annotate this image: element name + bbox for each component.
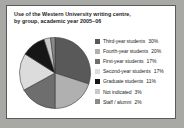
legend-item-label: First-year students (103, 58, 143, 64)
chart-title: Use of the Western University writing ce… (14, 11, 166, 25)
legend-swatch-icon (95, 49, 100, 54)
legend-item-percent: 2% (134, 99, 141, 105)
legend-item-percent: 17% (146, 58, 156, 64)
chart-card: Use of the Western University writing ce… (6, 5, 176, 119)
legend-item-label: Second-year students (103, 68, 151, 74)
chart-title-line-1: Use of the Western University writing ce… (14, 11, 131, 17)
legend-item-label: Fourth-year students (103, 48, 148, 54)
chart-title-line-2: by group, academic year 2005–06 (14, 18, 166, 25)
legend-swatch-icon (95, 89, 100, 94)
legend-item: First-year students17% (95, 56, 175, 66)
legend-item: Staff / alumni2% (95, 97, 175, 107)
pie-chart-svg (19, 34, 91, 112)
legend-item: Third-year students30% (95, 36, 175, 46)
legend-item-label: Third-year students (103, 38, 145, 44)
legend-swatch-icon (95, 99, 100, 104)
legend-item: Fourth-year students20% (95, 46, 175, 56)
pie-chart (19, 34, 91, 112)
chart-legend: Third-year students30%Fourth-year studen… (95, 36, 175, 107)
legend-item: Not indicated3% (95, 86, 175, 96)
legend-item-percent: 11% (146, 78, 156, 84)
chart-area: Third-year students30%Fourth-year studen… (7, 30, 177, 118)
legend-swatch-icon (95, 69, 100, 74)
legend-item: Second-year students17% (95, 66, 175, 76)
legend-item-percent: 20% (151, 48, 161, 54)
legend-swatch-icon (95, 59, 100, 64)
legend-item: Graduate students11% (95, 76, 175, 86)
legend-item-percent: 17% (154, 68, 164, 74)
legend-item-label: Not indicated (103, 89, 132, 95)
legend-item-label: Graduate students (103, 78, 143, 84)
legend-item-percent: 3% (135, 89, 142, 95)
legend-swatch-icon (95, 79, 100, 84)
legend-swatch-icon (95, 39, 100, 44)
legend-item-percent: 30% (148, 38, 158, 44)
legend-item-label: Staff / alumni (103, 99, 131, 105)
